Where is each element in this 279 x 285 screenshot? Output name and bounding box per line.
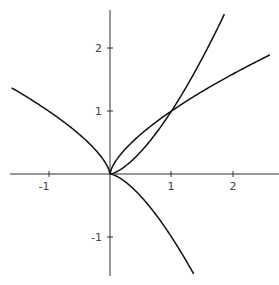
y-tick-label: -1 (91, 231, 102, 244)
y-tick-label: 2 (95, 42, 102, 55)
y-tick-label: 1 (95, 105, 102, 118)
plot-area: -1 1 2 2 1 -1 (0, 0, 279, 285)
curve-3 (110, 174, 194, 274)
curve-0 (12, 88, 110, 174)
x-tick-label: -1 (39, 180, 50, 193)
x-tick-label: 2 (230, 180, 237, 193)
curve-1 (110, 55, 270, 174)
curves (12, 14, 270, 274)
curve-2 (110, 14, 224, 174)
x-tick-label: 1 (168, 180, 175, 193)
